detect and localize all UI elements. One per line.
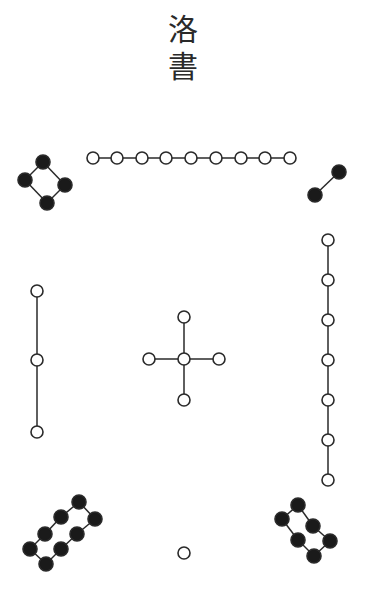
white-dot (235, 152, 247, 164)
white-dot (31, 285, 43, 297)
black-dot (88, 512, 102, 526)
black-dot (70, 527, 84, 541)
group-one-white (178, 547, 190, 559)
black-dot (332, 165, 346, 179)
black-dot (323, 534, 337, 548)
group-four-black (18, 155, 72, 210)
group-two-black (308, 165, 346, 202)
white-dot (178, 394, 190, 406)
white-dot (259, 152, 271, 164)
white-dot (160, 152, 172, 164)
white-dot (31, 426, 43, 438)
black-dot (291, 533, 305, 547)
group-six-black (275, 498, 337, 563)
white-dot (178, 311, 190, 323)
white-dot (213, 353, 225, 365)
white-dot (322, 354, 334, 366)
group-nine-white (87, 152, 296, 164)
white-dot (178, 547, 190, 559)
black-dot (275, 512, 289, 526)
white-dot (322, 434, 334, 446)
white-dot (178, 353, 190, 365)
black-dot (72, 495, 86, 509)
white-dot (322, 394, 334, 406)
white-dot (31, 354, 43, 366)
black-dot (40, 196, 54, 210)
group-seven-white (322, 234, 334, 486)
black-dot (39, 557, 53, 571)
group-three-white (31, 285, 43, 438)
lo-shu-diagram (0, 0, 365, 598)
white-dot (210, 152, 222, 164)
white-dot (111, 152, 123, 164)
black-dot (58, 178, 72, 192)
white-dot (322, 314, 334, 326)
white-dot (322, 274, 334, 286)
black-dot (308, 188, 322, 202)
black-dot (18, 173, 32, 187)
black-dot (307, 549, 321, 563)
white-dot (322, 234, 334, 246)
white-dot (322, 474, 334, 486)
black-dot (38, 527, 52, 541)
group-eight-black (23, 495, 102, 571)
white-dot (284, 152, 296, 164)
black-dot (306, 519, 320, 533)
white-dot (143, 353, 155, 365)
white-dot (136, 152, 148, 164)
black-dot (36, 155, 50, 169)
black-dot (54, 510, 68, 524)
black-dot (23, 542, 37, 556)
black-dot (54, 542, 68, 556)
black-dot (291, 498, 305, 512)
white-dot (185, 152, 197, 164)
white-dot (87, 152, 99, 164)
group-five-white (143, 311, 225, 406)
